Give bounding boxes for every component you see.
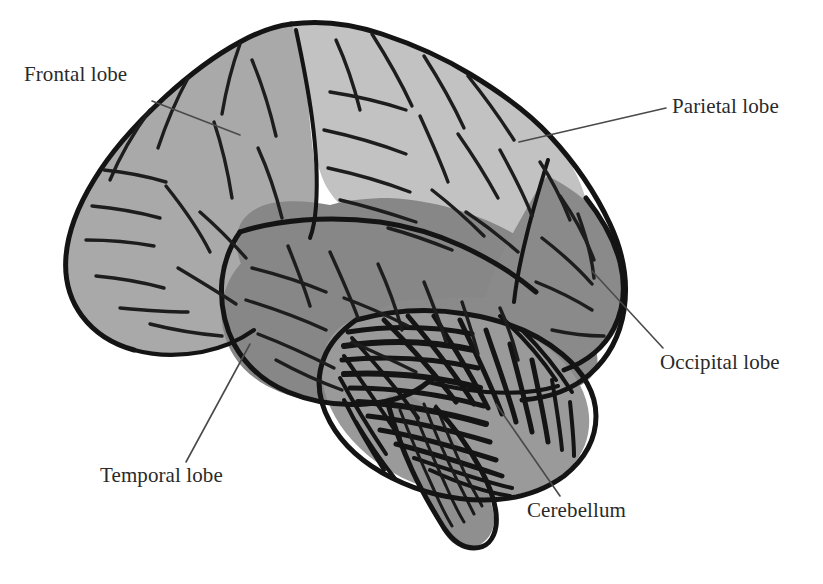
- label-frontal-lobe: Frontal lobe: [24, 64, 127, 85]
- label-occipital-lobe: Occipital lobe: [660, 352, 780, 373]
- leader-line-temporal: [186, 344, 250, 462]
- label-cerebellum: Cerebellum: [527, 500, 626, 521]
- brain-illustration: [0, 0, 823, 584]
- label-temporal-lobe: Temporal lobe: [100, 465, 223, 486]
- brain-diagram-figure: Frontal lobe Parietal lobe Occipital lob…: [0, 0, 823, 584]
- label-parietal-lobe: Parietal lobe: [672, 96, 779, 117]
